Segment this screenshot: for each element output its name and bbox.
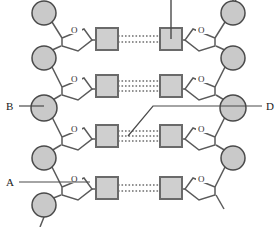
base-left-1 [96, 28, 118, 50]
ring-oxygen-left-3: O [71, 124, 78, 134]
bond-left-p3-s3 [52, 117, 62, 137]
bond-right-p3-s3 [215, 117, 225, 137]
right-ring-oxygen-labels: O O O O [196, 22, 209, 184]
left-ring-oxygen-labels: O O O O [69, 22, 82, 184]
label-a: A [6, 176, 14, 188]
phosphate-right-2 [221, 46, 245, 70]
bond-right-p4-s4 [215, 167, 225, 187]
right-phosphate-group [220, 1, 246, 170]
hydrogen-bonds [118, 36, 160, 191]
bond-left-p2-s2 [52, 67, 62, 87]
bond-right-s4-tail [216, 195, 224, 209]
bond-left-p4-s4 [52, 167, 62, 187]
label-d: D [266, 100, 274, 112]
base-right-4 [160, 177, 182, 199]
phosphate-left-1 [32, 1, 56, 25]
dna-diagram-canvas: O O O O [0, 0, 277, 227]
phosphate-right-4 [221, 146, 245, 170]
ring-oxygen-right-1: O [198, 25, 205, 35]
phosphate-left-5 [32, 193, 56, 217]
bond-left-p1-s1 [52, 22, 62, 38]
phosphate-right-1 [221, 1, 245, 25]
ring-oxygen-right-4: O [198, 174, 205, 184]
left-glycosidic-bonds [92, 40, 96, 189]
base-left-2 [96, 75, 118, 97]
ring-oxygen-right-3: O [198, 124, 205, 134]
label-b: B [6, 100, 13, 112]
ring-oxygen-left-1: O [71, 25, 78, 35]
base-left-3 [96, 125, 118, 147]
ring-oxygen-right-2: O [198, 74, 205, 84]
ring-oxygen-left-2: O [71, 74, 78, 84]
base-left-4 [96, 177, 118, 199]
left-phosphate-group [31, 1, 57, 217]
dna-double-helix-diagram: O O O O [0, 0, 277, 227]
phosphate-right-3 [220, 95, 246, 121]
phosphate-left-2 [32, 46, 56, 70]
right-glycosidic-bonds [182, 40, 185, 189]
bond-right-p1-s1 [215, 22, 225, 38]
bond-right-p2-s2 [215, 67, 225, 87]
phosphate-left-4 [32, 146, 56, 170]
base-right-3 [160, 125, 182, 147]
bond-left-p5-tail [40, 217, 44, 227]
phosphate-left-3 [31, 95, 57, 121]
base-right-2 [160, 75, 182, 97]
nitrogenous-bases [96, 28, 182, 199]
